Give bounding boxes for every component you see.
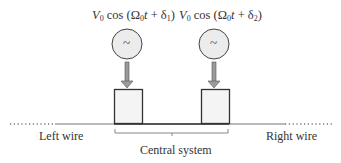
right-wire-label: Right wire: [266, 129, 317, 144]
arrow-shaft-1: [125, 62, 129, 82]
central-system-bracket: [115, 129, 228, 133]
formula-cos: cos (Ω: [104, 8, 140, 22]
formula-v: V: [92, 8, 100, 22]
source-formula-2: V0 cos (Ω0t + δ2): [179, 8, 262, 23]
tilde-symbol-2: ~: [210, 35, 217, 51]
source-formula-1: V0 cos (Ω0t + δ1): [92, 8, 175, 23]
formula-close: ): [171, 8, 175, 22]
formula-cos: cos (Ω: [191, 8, 227, 22]
formula-delta: + δ: [148, 8, 167, 22]
formula-close: ): [258, 8, 262, 22]
arrow-down-icon-2: [208, 81, 220, 88]
coupling-box-1: [115, 90, 143, 124]
arrow-down-icon-1: [121, 81, 133, 88]
formula-delta: + δ: [235, 8, 254, 22]
central-system-label: Central system: [140, 143, 212, 158]
formula-v: V: [179, 8, 187, 22]
coupling-box-2: [202, 90, 230, 124]
diagram-canvas: ~ ~ V0 cos (Ω0t + δ1) V0 cos (Ω0t + δ2) …: [0, 0, 341, 163]
left-wire-label: Left wire: [39, 129, 83, 144]
tilde-symbol-1: ~: [123, 35, 130, 51]
arrow-shaft-2: [212, 62, 216, 82]
